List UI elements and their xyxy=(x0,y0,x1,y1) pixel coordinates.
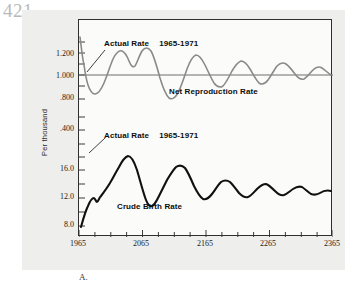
x-axis-tick-labels: 1965 2065 2165 2265 2365 xyxy=(52,240,345,254)
annotation-actual-rate-top-years: 1965-1971 xyxy=(159,39,198,48)
y-axis-tick-labels: 1.200 1.000 .800 .400 16.0 12.0 8.0 xyxy=(30,19,74,236)
plot-area: Actual Rate1965-1971 Net Reproduction Ra… xyxy=(78,19,332,236)
annotation-crude-birth-rate: Crude Birth Rate xyxy=(117,203,182,211)
figure-caption: A. xyxy=(79,272,88,282)
y-tick-800: .800 xyxy=(60,94,74,102)
annotation-net-reproduction-rate: Net Reproduction Rate xyxy=(169,88,258,96)
x-tick-2065: 2065 xyxy=(133,240,149,248)
x-axis-ticks xyxy=(79,230,333,237)
y-tick-1000: 1.000 xyxy=(56,72,74,80)
figure-panel: Per thousand 1.200 1.000 .800 .400 16.0 … xyxy=(22,10,345,270)
y-tick-12-0: 12.0 xyxy=(60,193,74,201)
x-tick-2265: 2265 xyxy=(260,240,276,248)
y-tick-8-0: 8.0 xyxy=(64,221,74,229)
x-tick-2165: 2165 xyxy=(197,240,213,248)
y-tick-16-0: 16.0 xyxy=(60,165,74,173)
annotation-actual-rate-bottom-years: 1965-1971 xyxy=(159,131,198,140)
annotation-actual-rate-bottom-label: Actual Rate xyxy=(104,131,149,140)
annotation-actual-rate-top: Actual Rate1965-1971 xyxy=(104,40,198,48)
x-tick-1965: 1965 xyxy=(70,240,86,248)
y-tick-400: .400 xyxy=(60,125,74,133)
annotation-actual-rate-top-label: Actual Rate xyxy=(104,39,149,48)
annotation-actual-rate-bottom: Actual Rate1965-1971 xyxy=(104,132,198,140)
series-crude-birth-rate xyxy=(81,156,331,227)
y-tick-1200: 1.200 xyxy=(56,50,74,58)
leader-line-actual-rate-bottom xyxy=(89,138,105,153)
x-tick-2365: 2365 xyxy=(324,240,340,248)
leader-line-actual-rate-top xyxy=(87,50,105,72)
